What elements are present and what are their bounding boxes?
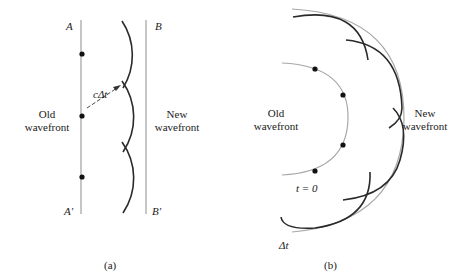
wavelet-arc-1	[122, 21, 132, 88]
caption-b: (b)	[324, 259, 337, 272]
source-point-b1	[312, 66, 317, 71]
caption-a: (a)	[104, 259, 116, 272]
wavelet-arc-3	[122, 142, 134, 213]
new-wavefront-label-b: New wavefront	[385, 107, 465, 133]
old-wavefront-label-a: Old wavefront	[7, 108, 87, 134]
source-point-b4	[312, 168, 317, 173]
source-point-b2	[340, 92, 345, 97]
label-a-top: A	[66, 20, 73, 33]
label-b-prime: B′	[152, 205, 161, 218]
wavelet-arc-2	[122, 81, 134, 152]
distance-label: cΔt	[93, 88, 107, 101]
old-wavefront-label-b: Old wavefront	[236, 107, 316, 133]
source-point-a1	[79, 51, 84, 56]
source-point-b3	[340, 142, 345, 147]
time-elapsed-label: Δt	[279, 239, 289, 252]
huygens-principle-figure: A B A′ B′ cΔt Old wavefront New wavefron…	[0, 0, 473, 279]
label-a-prime: A′	[64, 205, 73, 218]
diagram-canvas	[0, 0, 473, 279]
new-wavefront-label-a: New wavefront	[137, 108, 217, 134]
wavelet-arc-b1	[293, 15, 368, 60]
panel-a	[79, 20, 146, 214]
source-point-a3	[79, 174, 84, 179]
wavelet-arc-b4	[281, 172, 370, 228]
label-b-top: B	[155, 20, 162, 33]
time-start-label: t = 0	[296, 182, 317, 195]
